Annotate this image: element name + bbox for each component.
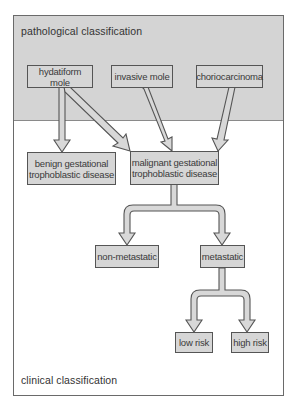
node-label-line2: trophoblastic disease [132, 168, 217, 179]
node-label: hydatiform mole [28, 66, 92, 88]
node-hydatiform-mole: hydatiform mole [27, 65, 93, 88]
node-non-metastatic: non-metastatic [95, 245, 159, 268]
arrow-hydatiform-to-malignant [64, 87, 130, 151]
arrow-malignant-fork [119, 184, 230, 245]
node-label: invasive mole [115, 71, 170, 82]
node-choriocarcinoma: choriocarcinoma [196, 65, 263, 88]
arrow-metastatic-fork [186, 268, 255, 332]
node-label: non-metastatic [97, 251, 157, 262]
node-high-risk: high risk [231, 332, 269, 353]
node-invasive-mole: invasive mole [111, 65, 173, 88]
arrow-hydatiform-to-benign [54, 87, 70, 152]
node-metastatic: metastatic [200, 245, 245, 268]
node-label: metastatic [202, 251, 243, 262]
node-label-line2: trophoblastic disease [29, 169, 114, 180]
arrow-choriocarcinoma-to-malignant [212, 87, 235, 151]
node-low-risk: low risk [175, 332, 213, 353]
node-label-line1: benign gestational [35, 158, 109, 169]
node-label: choriocarcinoma [196, 71, 263, 82]
node-label: low risk [179, 337, 209, 348]
node-label: high risk [233, 337, 267, 348]
node-label-line1: malignant gestational [132, 157, 218, 168]
node-benign-gtd: benign gestational trophoblastic disease [27, 152, 116, 185]
arrow-invasive-to-malignant [142, 87, 172, 151]
node-malignant-gtd: malignant gestational trophoblastic dise… [130, 151, 219, 185]
